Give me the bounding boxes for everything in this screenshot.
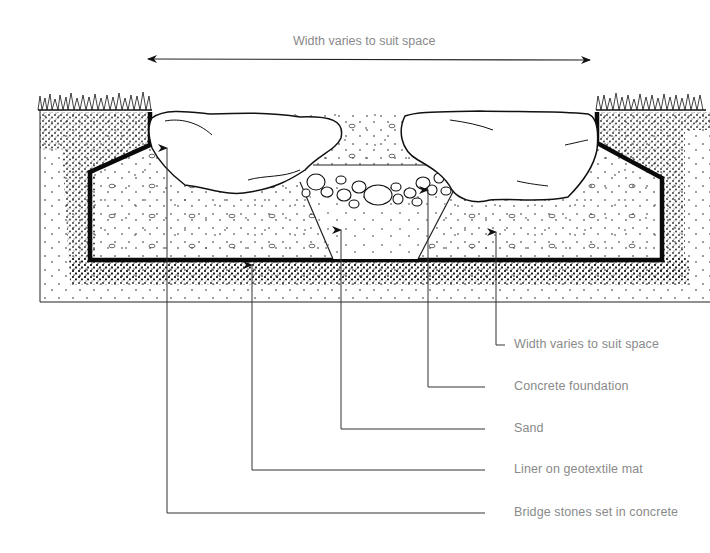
callout-sand: Sand [514,421,544,435]
callout-concrete-foundation: Concrete foundation [514,379,628,393]
grass-left [38,92,152,110]
dimension-label: Width varies to suit space [293,34,435,48]
callout-width: Width varies to suit space [514,337,659,351]
callout-bridge-stones: Bridge stones set in concrete [514,505,678,519]
grass-right [596,93,706,110]
dimension-arrow [148,59,590,60]
callout-liner: Liner on geotextile mat [514,462,643,476]
